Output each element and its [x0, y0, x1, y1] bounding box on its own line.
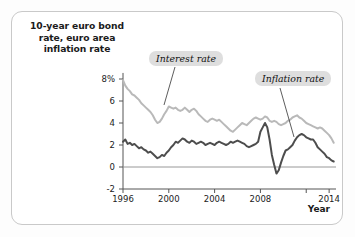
x-tick-label: 1996 — [106, 194, 140, 204]
x-tick-label: 2008 — [243, 194, 277, 204]
y-tick-label: 2 — [93, 140, 115, 150]
figure-card: 10-year euro bond rate, euro area inflat… — [11, 11, 343, 225]
x-tick-label: 2014 — [312, 194, 346, 204]
interest-rate-callout: Interest rate — [149, 51, 223, 66]
interest-rate-leader — [164, 67, 175, 105]
series-line-inflation-rate — [123, 123, 334, 174]
page-background: 10-year euro bond rate, euro area inflat… — [0, 0, 355, 237]
y-tick-label: 0 — [93, 162, 115, 172]
y-tick-label: -2 — [93, 184, 115, 194]
y-tick-label: 6 — [93, 96, 115, 106]
x-tick-label: 2000 — [152, 194, 186, 204]
inflation-rate-leader — [280, 88, 294, 137]
y-tick-label: 8% — [93, 74, 115, 84]
inflation-rate-callout: Inflation rate — [255, 71, 331, 86]
x-axis-title: Year — [308, 204, 330, 214]
x-tick-label: 2004 — [198, 194, 232, 204]
y-tick-label: 4 — [93, 118, 115, 128]
